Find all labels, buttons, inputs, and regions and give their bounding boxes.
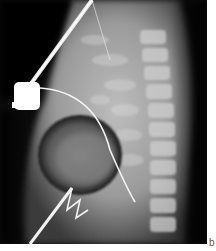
panel-label: b	[209, 238, 215, 248]
xray-illustration	[0, 0, 207, 244]
implanted-device	[12, 82, 40, 110]
figure: b	[0, 0, 216, 251]
radiograph-image	[0, 0, 207, 244]
